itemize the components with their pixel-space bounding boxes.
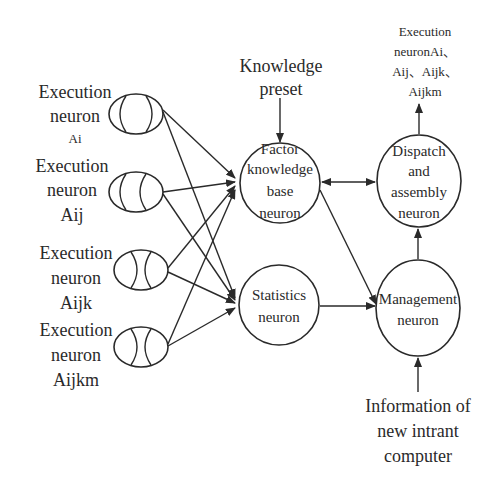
svg-text:neuron: neuron xyxy=(398,205,440,221)
neural-dispatch-diagram: Knowledge preset Execution neuronAi、 Aij… xyxy=(0,0,498,493)
execution-neuron-aij-icon xyxy=(109,172,163,212)
svg-text:neuron: neuron xyxy=(51,268,101,288)
svg-text:Aijk: Aijk xyxy=(60,293,92,313)
management-neuron: Management neuron xyxy=(376,260,460,356)
svg-text:Management: Management xyxy=(379,291,458,307)
svg-text:and: and xyxy=(408,163,430,179)
svg-text:Ai: Ai xyxy=(69,131,82,146)
svg-text:neuron: neuron xyxy=(258,309,300,325)
knowledge-preset-label: Knowledge preset xyxy=(240,56,323,99)
statistics-neuron: Statistics neuron xyxy=(239,265,319,345)
svg-text:Aij: Aij xyxy=(60,205,83,225)
svg-text:Aij、Aijk、: Aij、Aijk、 xyxy=(392,64,458,79)
svg-text:Execution: Execution xyxy=(39,82,112,102)
svg-text:neuron: neuron xyxy=(259,205,301,221)
execution-neuron-aij-label: Execution neuron Aij xyxy=(36,156,109,225)
svg-text:Execution: Execution xyxy=(40,320,113,340)
execution-to-hidden-edges xyxy=(163,110,235,346)
svg-text:Statistics: Statistics xyxy=(252,287,306,303)
svg-text:Factor: Factor xyxy=(261,141,299,157)
execution-neuron-aijkm-icon xyxy=(114,327,168,367)
execution-neuron-aijk-label: Execution neuron Aijk xyxy=(40,243,113,313)
execution-neuron-aijkm-label: Execution neuron Aijkm xyxy=(40,320,113,390)
svg-text:neuronAi、: neuronAi、 xyxy=(394,44,456,59)
svg-text:knowledge: knowledge xyxy=(247,161,313,177)
factor-management-edge xyxy=(320,190,376,304)
svg-text:Execution: Execution xyxy=(36,156,109,176)
svg-text:neuron: neuron xyxy=(50,106,100,126)
execution-neuron-ai-label: Execution neuron Ai xyxy=(39,82,112,146)
svg-text:neuron: neuron xyxy=(51,345,101,365)
new-intrant-info-label: Information of new intrant computer xyxy=(365,396,470,466)
dispatch-assembly-neuron: Dispatch and assembly neuron xyxy=(377,135,461,227)
svg-text:Dispatch: Dispatch xyxy=(392,143,446,159)
svg-text:neuron: neuron xyxy=(47,180,97,200)
svg-text:preset: preset xyxy=(260,79,303,99)
factor-knowledge-base-neuron: Factor knowledge base neuron xyxy=(240,141,320,223)
svg-text:Execution: Execution xyxy=(399,24,452,39)
svg-text:Information of: Information of xyxy=(365,396,470,416)
svg-text:Execution: Execution xyxy=(40,243,113,263)
svg-text:Knowledge: Knowledge xyxy=(240,56,323,76)
svg-text:new intrant: new intrant xyxy=(377,421,458,441)
svg-text:Aijkm: Aijkm xyxy=(408,84,441,99)
svg-text:computer: computer xyxy=(384,446,452,466)
svg-text:base: base xyxy=(267,183,294,199)
svg-text:neuron: neuron xyxy=(397,312,439,328)
execution-neuron-aijk-icon xyxy=(114,250,168,290)
execution-output-label: Execution neuronAi、 Aij、Aijk、 Aijkm xyxy=(392,24,458,99)
execution-neuron-ai-icon xyxy=(109,94,163,134)
svg-text:Aijkm: Aijkm xyxy=(53,370,99,390)
svg-text:assembly: assembly xyxy=(391,184,447,200)
